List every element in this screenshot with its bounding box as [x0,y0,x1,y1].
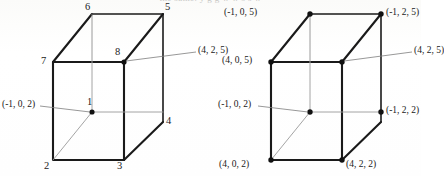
right-callout-bot-back-right: (-1, 2, 2) [386,106,419,116]
right-callout-bot-front-right: (4, 2, 2) [346,160,376,170]
right-box-edges [271,14,381,160]
right-callout-top-back-left: (-1, 0, 5) [224,8,257,18]
right-callout-top-back-right: (-1, 2, 5) [386,8,419,18]
right-callout-top-front-left: (4, 0, 5) [222,56,252,66]
right-box-vertex-dots [268,11,383,162]
right-callout-top-front-right: (4, 2, 5) [414,46,444,56]
right-callout-bot-front-left: (4, 0, 2) [219,160,249,170]
right-callout-bot-back-left: (-1, 0, 2) [218,100,251,110]
